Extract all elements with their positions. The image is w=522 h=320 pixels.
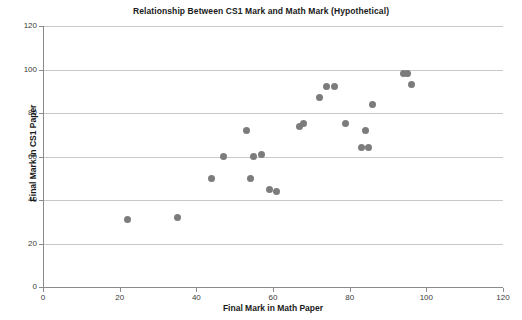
data-point: [316, 94, 323, 101]
x-tick-label-120: 120: [488, 294, 518, 302]
x-tick-mark-20: [120, 288, 121, 292]
data-point: [247, 175, 254, 182]
data-point: [300, 120, 307, 127]
x-tick-label-20: 20: [105, 294, 135, 302]
data-point: [258, 151, 265, 158]
x-axis-title: Final Mark in Math Paper: [43, 303, 503, 313]
y-axis-line: [43, 26, 44, 287]
x-tick-mark-120: [503, 288, 504, 292]
y-tick-mark-80: [39, 113, 43, 114]
gridline-y-40: [43, 200, 503, 201]
data-point: [358, 144, 365, 151]
y-tick-mark-100: [39, 70, 43, 71]
x-tick-label-80: 80: [335, 294, 365, 302]
gridline-y-120: [43, 26, 503, 27]
data-point: [408, 81, 415, 88]
y-tick-label-120: 120: [3, 22, 37, 30]
data-point: [323, 83, 330, 90]
chart-title: Relationship Between CS1 Mark and Math M…: [0, 6, 522, 16]
x-tick-mark-60: [273, 288, 274, 292]
data-point: [124, 216, 131, 223]
x-tick-mark-40: [196, 288, 197, 292]
y-tick-mark-20: [39, 244, 43, 245]
x-tick-label-0: 0: [28, 294, 58, 302]
chart-screenshot: Relationship Between CS1 Mark and Math M…: [0, 0, 522, 320]
data-point: [220, 153, 227, 160]
x-tick-label-100: 100: [411, 294, 441, 302]
gridline-y-100: [43, 70, 503, 71]
data-point: [369, 101, 376, 108]
x-tick-mark-0: [43, 288, 44, 292]
x-tick-mark-100: [426, 288, 427, 292]
data-point: [331, 83, 338, 90]
data-point: [365, 144, 372, 151]
x-tick-label-40: 40: [181, 294, 211, 302]
y-tick-mark-120: [39, 26, 43, 27]
data-point: [273, 188, 280, 195]
gridline-y-60: [43, 157, 503, 158]
plot-area: [43, 26, 503, 287]
y-tick-mark-40: [39, 200, 43, 201]
x-tick-label-60: 60: [258, 294, 288, 302]
data-point: [250, 153, 257, 160]
y-tick-mark-60: [39, 157, 43, 158]
data-point: [243, 127, 250, 134]
data-point: [266, 186, 273, 193]
data-point: [404, 70, 411, 77]
y-tick-label-0: 0: [3, 283, 37, 291]
y-axis-title: Final Mark in CS1 Paper: [28, 63, 38, 243]
data-point: [174, 214, 181, 221]
data-point: [362, 127, 369, 134]
gridline-y-80: [43, 113, 503, 114]
gridline-y-20: [43, 244, 503, 245]
x-tick-mark-80: [350, 288, 351, 292]
data-point: [208, 175, 215, 182]
data-point: [342, 120, 349, 127]
